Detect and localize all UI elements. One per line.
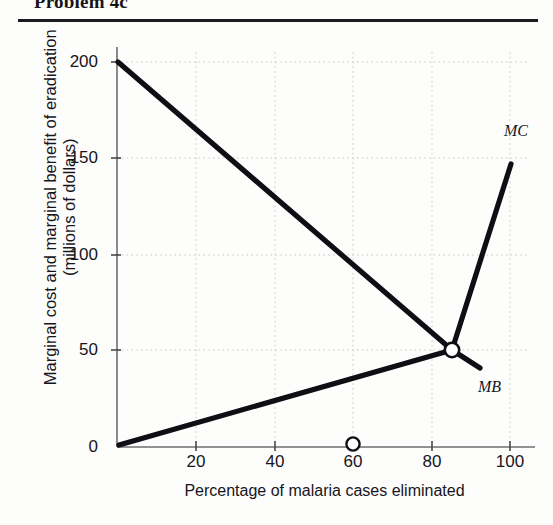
chart-markers: [346, 343, 459, 451]
mc-downward-segment: [118, 62, 452, 350]
mb-rising-segment: [119, 350, 452, 445]
chart-plot: [0, 0, 553, 525]
axis-marker-60: [346, 437, 359, 450]
figure-container: Problem 4c Marginal cost and marginal be…: [0, 0, 553, 525]
series-mb: [119, 350, 480, 445]
mc-upward-segment: [452, 164, 511, 350]
series-mc: [118, 62, 511, 350]
equilibrium-marker: [445, 343, 459, 357]
